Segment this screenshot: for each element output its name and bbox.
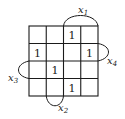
cell-r0-c2: 1 xyxy=(69,29,76,42)
label-x4: x4 xyxy=(107,55,117,68)
label-x2: x2 xyxy=(58,102,69,115)
arc-top-x1 xyxy=(64,16,99,27)
cell-r3-c2: 1 xyxy=(69,82,76,95)
arc-left-x3 xyxy=(19,61,30,79)
kmap-grid xyxy=(29,26,98,96)
karnaugh-map: 1 1 1 1 1 x1 x4 x3 x2 xyxy=(0,0,125,119)
label-x3: x3 xyxy=(8,72,19,85)
cell-r1-c3: 1 xyxy=(86,47,93,60)
cell-r1-c0: 1 xyxy=(34,47,41,60)
cell-r2-c1: 1 xyxy=(51,64,58,77)
